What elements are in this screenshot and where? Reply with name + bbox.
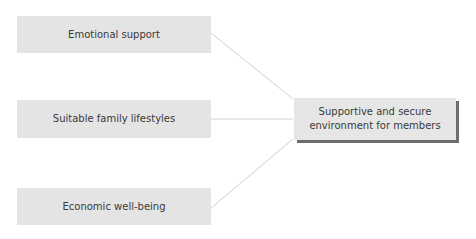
input-label: Suitable family lifestyles [53, 112, 175, 126]
output-label-line2: environment for members [309, 119, 440, 133]
output-label-line1: Supportive and secure [309, 105, 440, 119]
connector-emotional-support [211, 33, 293, 99]
connector-economic-wellbeing [211, 139, 293, 208]
input-box-emotional-support: Emotional support [17, 16, 211, 53]
output-box: Supportive and secure environment for me… [294, 98, 456, 140]
input-label: Economic well-being [62, 200, 165, 214]
input-label: Emotional support [68, 28, 160, 42]
input-box-family-lifestyles: Suitable family lifestyles [17, 100, 211, 138]
input-box-economic-wellbeing: Economic well-being [17, 188, 211, 225]
